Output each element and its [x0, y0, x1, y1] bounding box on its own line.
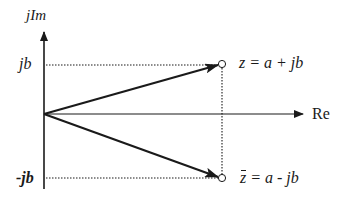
z-point-marker: [218, 60, 225, 67]
imaginary-axis-label: jIm: [26, 8, 46, 23]
z-conjugate-point-marker: [218, 174, 225, 181]
neg-jb-tick-label: -jb: [16, 170, 34, 186]
z-conjugate-expr: = a - jb: [246, 169, 299, 186]
z-equation-label: z = a + jb: [239, 55, 303, 71]
z-conjugate-vector: [44, 114, 218, 177]
real-axis-label: Re: [312, 106, 330, 122]
jb-tick-label: jb: [19, 56, 31, 72]
z-conjugate-var: z: [240, 170, 246, 186]
z-expr: = a + jb: [245, 54, 303, 71]
z-conjugate-equation-label: z = a - jb: [240, 170, 299, 186]
z-vector: [44, 65, 218, 114]
